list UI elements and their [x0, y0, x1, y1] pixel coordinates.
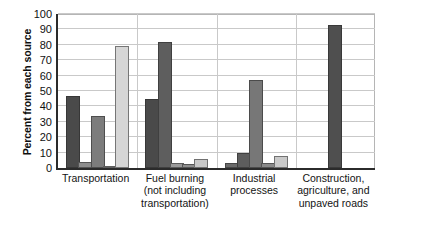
x-axis-label-line: processes	[209, 184, 300, 196]
x-axis-label-group-2: Industrialprocesses	[209, 172, 300, 197]
plot-area	[56, 14, 375, 170]
y-tick-0: 0	[24, 163, 52, 174]
plot-right-border	[374, 14, 375, 168]
y-tick-100: 100	[24, 9, 52, 20]
y-tick-20: 20	[24, 132, 52, 143]
y-axis-tick-labels: 1009080706050403020100	[24, 0, 52, 234]
bar-g1-s1	[158, 42, 172, 168]
bar-g0-s0	[66, 96, 80, 168]
bar-g3-s0	[328, 25, 342, 168]
x-axis-label-group-1: Fuel burning(not includingtransportation…	[129, 172, 220, 209]
x-axis-label-group-0: Transportation	[50, 172, 141, 184]
x-axis-label-line: Construction,	[288, 172, 379, 184]
bar-g0-s4	[115, 46, 129, 168]
plot-inner	[58, 14, 375, 168]
x-axis-label-group-3: Construction,agriculture, andunpaved roa…	[288, 172, 379, 209]
y-tick-60: 60	[24, 70, 52, 81]
y-tick-50: 50	[24, 86, 52, 97]
bar-chart: Percent from each source 100908070605040…	[0, 0, 431, 234]
y-tick-70: 70	[24, 55, 52, 66]
bar-g1-s4	[194, 159, 208, 168]
y-tick-40: 40	[24, 101, 52, 112]
y-tick-30: 30	[24, 116, 52, 127]
bar-g2-s4	[274, 156, 288, 168]
bar-g0-s2	[91, 116, 105, 168]
x-axis-label-line: Industrial	[209, 172, 300, 184]
x-axis-label-line: Fuel burning	[129, 172, 220, 184]
group-separator-1	[137, 14, 138, 168]
x-axis-label-line: Transportation	[50, 172, 141, 184]
y-tick-10: 10	[24, 147, 52, 158]
y-tick-90: 90	[24, 24, 52, 35]
bar-g2-s2	[249, 80, 263, 168]
x-axis-label-line: transportation)	[129, 197, 220, 209]
group-separator-3	[296, 14, 297, 168]
x-axis-label-line: agriculture, and	[288, 184, 379, 196]
y-tick-80: 80	[24, 39, 52, 50]
x-axis-label-line: (not including	[129, 184, 220, 196]
x-axis-label-line: unpaved roads	[288, 197, 379, 209]
x-axis-group-labels: TransportationFuel burning(not including…	[56, 172, 373, 232]
group-separator-2	[217, 14, 218, 168]
